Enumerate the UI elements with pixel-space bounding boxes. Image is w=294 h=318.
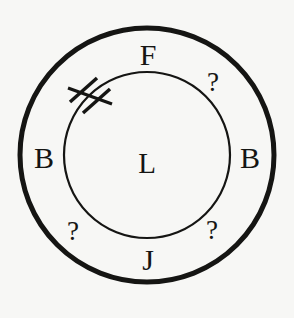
ring-label-lower-left: ?	[67, 218, 79, 245]
ring-label-upper-right: ?	[207, 69, 219, 96]
ring-label-top: F	[140, 40, 157, 70]
ring-label-left: B	[34, 143, 54, 173]
diagram-canvas: L F ? B ? J ? B	[0, 0, 294, 318]
center-label: L	[138, 149, 156, 178]
ring-label-lower-right: ?	[206, 217, 218, 244]
ring-label-bottom: J	[142, 245, 154, 275]
ring-label-right: B	[240, 143, 260, 173]
